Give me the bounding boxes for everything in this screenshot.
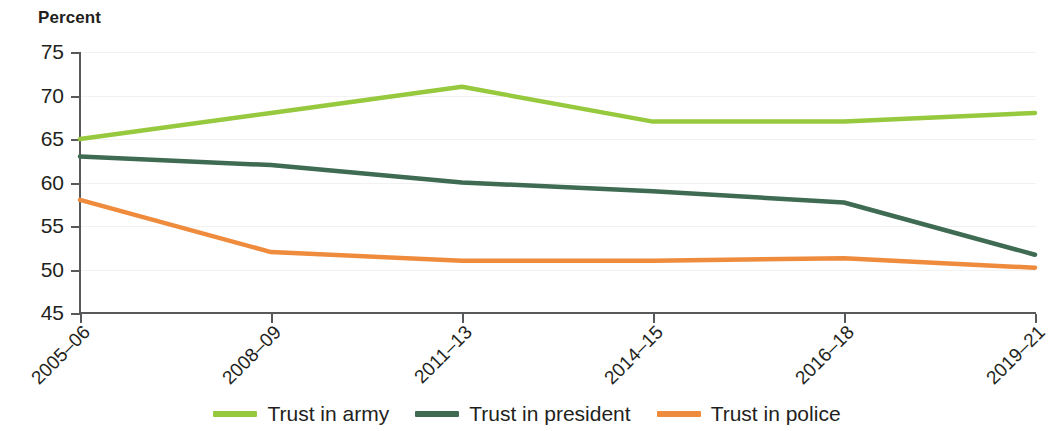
legend-label: Trust in police bbox=[711, 403, 841, 424]
y-axis-tick-label: 75 bbox=[22, 41, 64, 62]
y-axis-tick-label: 50 bbox=[22, 259, 64, 280]
line-chart: Percent 45505560657075 2005–062008–09201… bbox=[0, 0, 1054, 431]
series-lines bbox=[80, 52, 1035, 313]
legend-item[interactable]: Trust in army bbox=[213, 403, 389, 424]
y-axis-title: Percent bbox=[38, 8, 101, 28]
y-axis-tick-label: 70 bbox=[22, 85, 64, 106]
legend-swatch bbox=[213, 411, 257, 417]
series-line bbox=[80, 87, 1035, 139]
y-axis-tick-label: 60 bbox=[22, 172, 64, 193]
series-line bbox=[80, 200, 1035, 268]
y-axis-tick-label: 65 bbox=[22, 128, 64, 149]
legend-swatch bbox=[657, 411, 701, 417]
legend-label: Trust in army bbox=[267, 403, 389, 424]
legend-swatch bbox=[415, 411, 459, 417]
legend-item[interactable]: Trust in president bbox=[415, 403, 630, 424]
y-axis-tick-label: 55 bbox=[22, 215, 64, 236]
chart-legend: Trust in armyTrust in presidentTrust in … bbox=[0, 403, 1054, 424]
plot-area bbox=[80, 52, 1035, 313]
y-axis-tick-label: 45 bbox=[22, 302, 64, 323]
legend-label: Trust in president bbox=[469, 403, 630, 424]
legend-item[interactable]: Trust in police bbox=[657, 403, 841, 424]
